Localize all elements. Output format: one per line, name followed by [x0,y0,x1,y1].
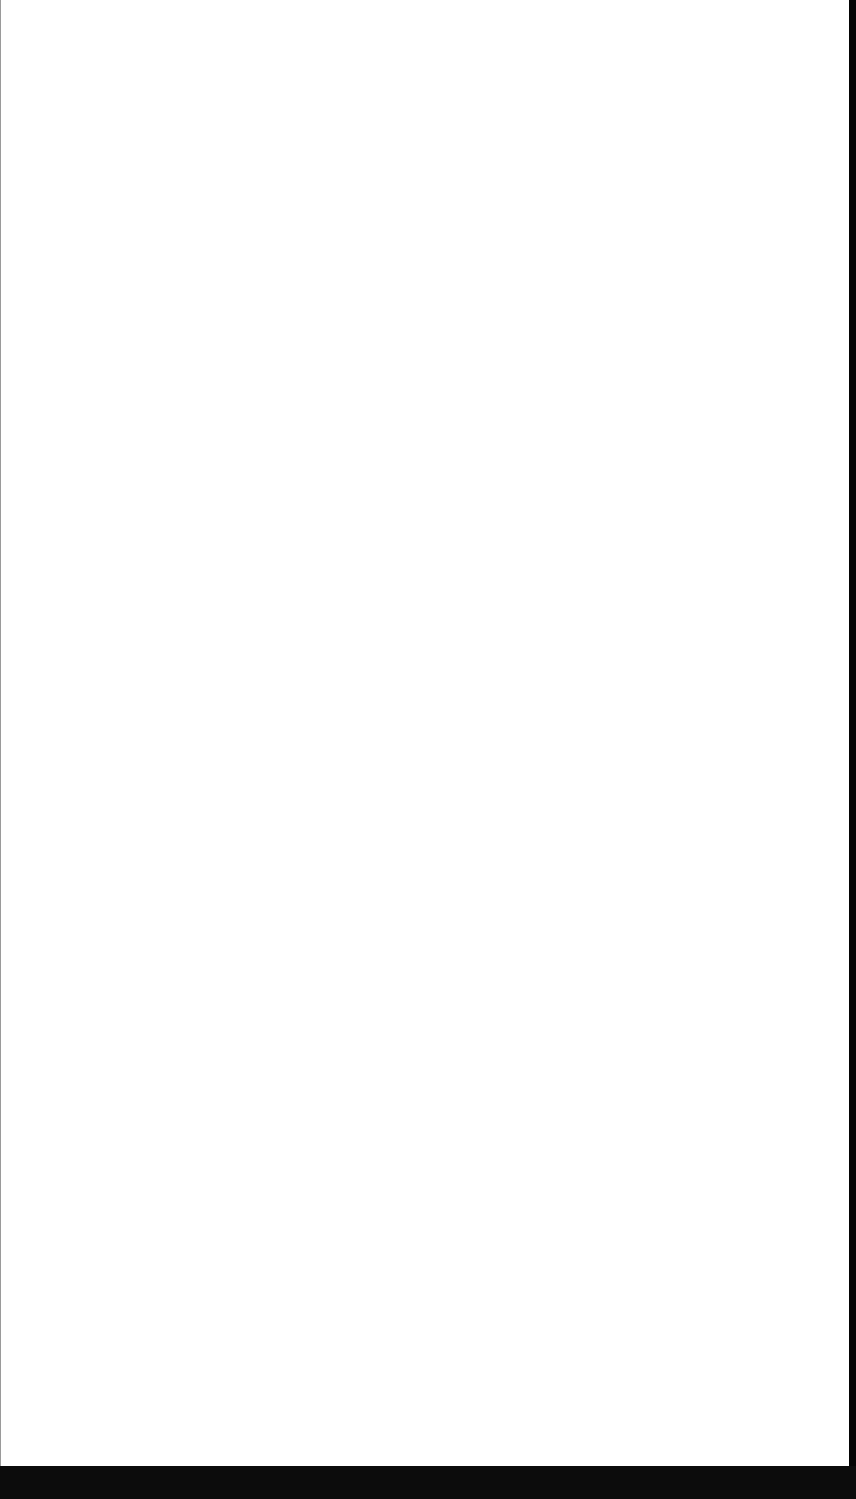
blank-page-viewport [0,0,849,1466]
bottom-bar [0,1466,856,1499]
window-right-edge [849,0,856,1466]
